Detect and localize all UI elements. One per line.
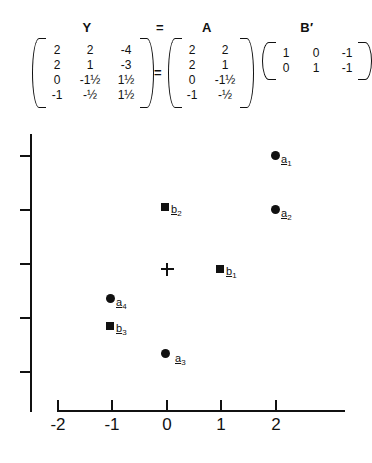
x-axis-tick	[57, 400, 59, 411]
y-axis-tick	[20, 209, 31, 211]
data-point-label: a4	[116, 296, 127, 311]
data-point-label: b2	[171, 203, 182, 218]
x-axis	[57, 410, 345, 412]
y-axis-tick	[20, 371, 31, 373]
vector-subscript: 4	[122, 302, 126, 311]
x-axis-tick	[275, 400, 277, 411]
circle-marker	[161, 349, 170, 358]
data-point-label: a3	[175, 352, 186, 367]
x-tick-label: 2	[261, 415, 291, 435]
square-marker	[161, 203, 169, 211]
vector-subscript: 2	[177, 209, 181, 218]
data-point-label: a1	[281, 153, 292, 168]
x-tick-label: 0	[152, 415, 182, 435]
x-tick-label: 1	[206, 415, 236, 435]
square-marker	[106, 322, 114, 330]
vector-subscript: 1	[232, 271, 236, 280]
vector-subscript: 2	[287, 213, 291, 222]
data-point-label: b3	[116, 322, 127, 337]
x-tick-label: -2	[43, 415, 73, 435]
x-axis-tick	[220, 400, 222, 411]
x-axis-tick	[166, 400, 168, 411]
vector-subscript: 1	[287, 159, 291, 168]
circle-marker	[271, 205, 280, 214]
x-axis-tick	[111, 400, 113, 411]
circle-marker	[106, 294, 115, 303]
vector-subscript: 3	[181, 358, 185, 367]
x-tick-label: -1	[97, 415, 127, 435]
y-axis-tick	[20, 317, 31, 319]
y-axis-tick	[20, 263, 31, 265]
data-point-label: a2	[281, 207, 292, 222]
vector-subscript: 3	[122, 328, 126, 337]
origin-marker	[161, 263, 174, 276]
square-marker	[216, 265, 224, 273]
y-axis-tick	[20, 155, 31, 157]
data-point-label: b1	[226, 265, 237, 280]
circle-marker	[271, 151, 280, 160]
